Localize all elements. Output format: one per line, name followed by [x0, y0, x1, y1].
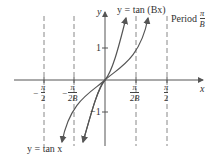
tan-bx-label: y = tan (Bx)	[117, 5, 166, 15]
curve-tan-x	[105, 18, 148, 80]
x-tick-pi-over-2B: π 2B	[130, 83, 139, 102]
graph-canvas	[0, 0, 209, 164]
x-tick-pi-over-2: π 2	[163, 83, 169, 102]
period-label: Period	[171, 14, 197, 24]
x-tick-neg-pi-over-2B: π 2B	[68, 83, 77, 102]
x-tick-1-sign: −	[62, 88, 67, 98]
y-tick-1: 1	[96, 43, 101, 53]
period-fraction: π B	[199, 9, 205, 28]
y-axis-label: y	[97, 7, 101, 17]
x-tick-0-sign: −	[33, 88, 38, 98]
y-tick-neg-1: −1	[90, 107, 101, 117]
x-tick-neg-pi-over-2: π 2	[40, 83, 46, 102]
tan-x-label: y = tan x	[27, 144, 62, 154]
x-axis-label: x	[200, 84, 204, 94]
